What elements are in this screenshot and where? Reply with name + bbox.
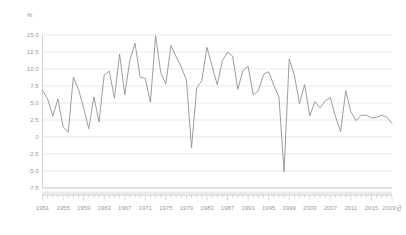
y-tick-label: -5.0	[28, 168, 39, 174]
y-axis-tick-labels: 15.012.510.07.55.02.50-2.5-5.0-7.5	[27, 32, 39, 191]
y-tick-label: 15.0	[27, 32, 39, 38]
x-tick-label: 1983	[200, 205, 214, 211]
x-tick-label: 2003	[303, 205, 317, 211]
y-tick-label: 2.5	[30, 117, 39, 123]
data-series-group	[43, 36, 393, 172]
axis-lines	[43, 35, 393, 188]
series-line-growth-rate	[43, 36, 393, 172]
y-tick-label: 5.0	[30, 100, 39, 106]
x-tick-label: 1979	[180, 205, 194, 211]
y-tick-label: 10.0	[27, 66, 39, 72]
x-tick-label: 1959	[77, 205, 91, 211]
x-tick-label: 2019년	[382, 204, 401, 211]
x-tick-label: 1967	[118, 205, 132, 211]
y-tick-label: -7.5	[28, 185, 39, 191]
x-axis-tick-band	[43, 192, 393, 201]
y-tick-label: 0	[35, 134, 39, 140]
x-tick-label: 2015	[365, 205, 379, 211]
x-axis-tick-labels: 1951195519591963196719711975197919831987…	[36, 204, 402, 211]
line-chart-svg: 15.012.510.07.55.02.50-2.5-5.0-7.5 19511…	[0, 0, 406, 235]
chart-root: % 15.012.510.07.55.02.50-2.5-5.0-7.5 195…	[0, 0, 406, 235]
x-tick-label: 1975	[159, 205, 173, 211]
x-tick-label: 1987	[221, 205, 235, 211]
x-tick-label: 2011	[344, 205, 358, 211]
gridlines-group	[43, 35, 393, 188]
x-tick-label: 1991	[241, 205, 255, 211]
x-tick-label: 1951	[36, 205, 50, 211]
y-tick-label: 12.5	[27, 49, 39, 55]
x-tick-label: 1963	[97, 205, 111, 211]
x-tick-label: 2007	[324, 205, 338, 211]
y-tick-label: 7.5	[30, 83, 39, 89]
axis-band	[43, 192, 393, 195]
y-tick-label: -2.5	[28, 151, 39, 157]
x-tick-label: 1995	[262, 205, 276, 211]
chart-plot-area: 15.012.510.07.55.02.50-2.5-5.0-7.5 19511…	[0, 0, 406, 235]
x-tick-label: 1971	[139, 205, 153, 211]
x-tick-label: 1955	[56, 205, 70, 211]
x-tick-label: 1999	[283, 205, 297, 211]
